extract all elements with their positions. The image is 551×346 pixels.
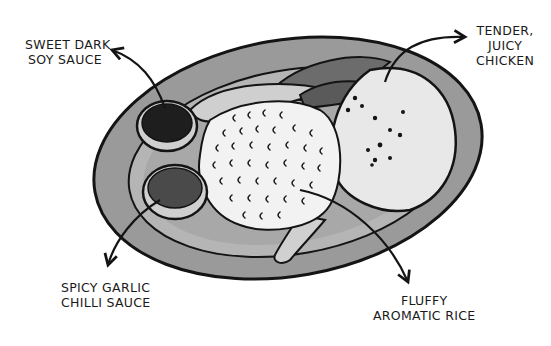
label-chilli-sauce: SPICY GARLIC CHILLI SAUCE [61, 280, 151, 310]
label-soy-sauce: SWEET DARK SOY SAUCE [25, 37, 111, 67]
label-rice: FLUFFY AROMATIC RICE [373, 293, 475, 323]
label-line: CHILLI SAUCE [61, 295, 151, 310]
label-line: FLUFFY [373, 293, 475, 308]
label-chicken: TENDER, JUICY CHICKEN [476, 23, 534, 68]
label-line: SOY SAUCE [25, 52, 111, 67]
label-line: SWEET DARK [25, 37, 111, 52]
soy-sauce-dish [137, 101, 197, 151]
label-line: TENDER, [476, 23, 534, 38]
label-line: AROMATIC RICE [373, 308, 475, 323]
rice-mound [199, 101, 340, 230]
label-line: SPICY GARLIC [61, 280, 151, 295]
chilli-sauce-dish [143, 165, 207, 219]
label-line: JUICY [476, 38, 534, 53]
label-line: CHICKEN [476, 53, 534, 68]
